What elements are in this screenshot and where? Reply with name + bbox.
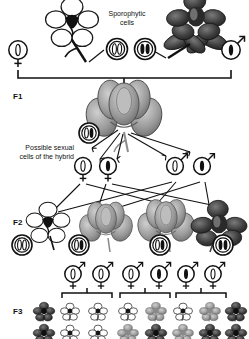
f2-label: F2 (13, 218, 23, 227)
f1-gamete-male-dominant (194, 154, 215, 175)
genetics-diagram: Sporophytic cells F1 Possible sexual cel… (0, 0, 249, 339)
f2-generation (12, 198, 248, 255)
sporophytic-cells-label: Sporophytic cells (100, 10, 154, 27)
f1-cell-heterozygote (79, 123, 99, 143)
parent-flower-right (162, 0, 231, 58)
f3-label: F3 (13, 307, 23, 316)
f3-gamete-rows (62, 262, 226, 298)
f3-group-3 (176, 262, 226, 298)
f1-gamete-female-dominant (100, 158, 117, 182)
f1-gamete-female-recessive (75, 158, 92, 182)
possible-sexual-cells-label: Possible sexual cells of the hybrid (2, 144, 74, 161)
f2-flower-1 (26, 202, 70, 250)
f1-generation (75, 78, 215, 181)
possible-sexual-cells-line2: cells of the hybrid (2, 153, 74, 162)
possible-sexual-cells-line1: Possible sexual (2, 144, 74, 153)
sporophytic-cell-2 (135, 39, 156, 60)
f2-cell-4 (213, 235, 233, 255)
gamete-parent-female (9, 41, 27, 67)
f2-cell-1 (12, 235, 32, 255)
parent-flower-left (46, 0, 99, 62)
f1-label: F1 (13, 92, 23, 101)
f2-cell-3 (150, 235, 170, 255)
f3-group-2 (120, 262, 171, 298)
sporophytic-cells-line2: cells (100, 19, 154, 28)
sporophytic-cells-line1: Sporophytic (100, 10, 154, 19)
f3-group-1 (62, 262, 113, 298)
diagram-canvas (0, 0, 249, 339)
sporophytic-cell-1 (107, 39, 128, 60)
f3-flower-grid (33, 302, 247, 339)
f2-cell-2 (69, 235, 89, 255)
pointer-left-sporophytic (89, 50, 104, 62)
f1-gamete-male-recessive (167, 154, 188, 175)
f2-cross-lines (50, 182, 216, 214)
